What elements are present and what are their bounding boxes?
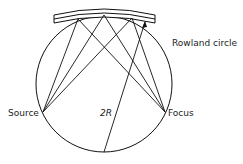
rowland-circle-label: Rowland circle [172,38,237,48]
rowland-circle [36,16,172,152]
radius-label: 2R [100,108,112,118]
rays [43,15,165,112]
source-label: Source [8,108,39,118]
focus-label: Focus [168,108,194,118]
radius-arrowhead [142,21,147,28]
rowland-diagram [0,0,243,164]
